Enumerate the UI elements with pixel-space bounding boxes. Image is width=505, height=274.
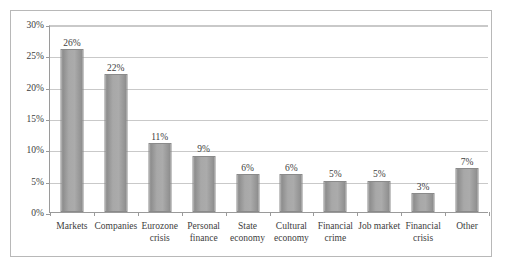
chart-frame: 0%5%10%15%20%25%30% 26%22%11%9%6%6%5%5%3… xyxy=(10,10,492,257)
bar-slot: 22% xyxy=(94,26,138,212)
bar-personal-finance[interactable]: 9% xyxy=(192,156,215,212)
bar-slot: 3% xyxy=(401,26,445,212)
bar-slot: 11% xyxy=(138,26,182,212)
x-axis-category-label-line: Other xyxy=(439,220,495,232)
bar-slot: 7% xyxy=(445,26,489,212)
x-axis-tick xyxy=(226,212,227,216)
bar-cultural-economy[interactable]: 6% xyxy=(280,174,303,212)
bar-value-label: 9% xyxy=(197,145,210,155)
bar-eurozone-crisis[interactable]: 11% xyxy=(148,143,171,212)
x-axis-category-label-line: crime xyxy=(307,232,363,244)
x-axis-category-label: Other xyxy=(439,220,495,232)
bar-state-economy[interactable]: 6% xyxy=(236,174,259,212)
bar-slot: 26% xyxy=(50,26,94,212)
y-axis-label: 5% xyxy=(31,178,44,188)
bar-slot: 9% xyxy=(182,26,226,212)
bar-value-label: 3% xyxy=(417,183,430,193)
bar-value-label: 26% xyxy=(63,39,80,49)
bar-other[interactable]: 7% xyxy=(456,168,479,212)
y-axis-label: 10% xyxy=(27,147,44,157)
bar-value-label: 6% xyxy=(285,164,298,174)
x-axis-tick xyxy=(445,212,446,216)
bar-value-label: 5% xyxy=(329,170,342,180)
bar-markets[interactable]: 26% xyxy=(60,49,83,212)
bar-financial-crime[interactable]: 5% xyxy=(324,181,347,212)
bar-value-label: 5% xyxy=(373,170,386,180)
x-axis-tick xyxy=(357,212,358,216)
x-axis-tick xyxy=(138,212,139,216)
bar-job-market[interactable]: 5% xyxy=(368,181,391,212)
y-axis-label: 25% xyxy=(27,53,44,63)
bar-financial-crisis[interactable]: 3% xyxy=(412,193,435,212)
x-axis-tick xyxy=(401,212,402,216)
bar-value-label: 11% xyxy=(151,133,168,143)
bar-companies[interactable]: 22% xyxy=(104,74,127,212)
x-axis-tick xyxy=(182,212,183,216)
chart-plot-wrapper: 0%5%10%15%20%25%30% 26%22%11%9%6%6%5%5%3… xyxy=(11,11,491,256)
bar-slot: 6% xyxy=(270,26,314,212)
bar-slot: 5% xyxy=(313,26,357,212)
bar-slot: 5% xyxy=(357,26,401,212)
y-axis-label: 20% xyxy=(27,84,44,94)
x-axis-tick xyxy=(489,212,490,216)
x-axis-tick xyxy=(94,212,95,216)
y-axis-label: 30% xyxy=(27,21,44,31)
bar-value-label: 7% xyxy=(461,158,474,168)
y-axis-label: 15% xyxy=(27,115,44,125)
x-axis-tick xyxy=(313,212,314,216)
x-axis-tick xyxy=(50,212,51,216)
chart-plot-area: 0%5%10%15%20%25%30% 26%22%11%9%6%6%5%5%3… xyxy=(49,25,488,213)
y-axis-label: 0% xyxy=(31,209,44,219)
x-axis-category-label-line: crisis xyxy=(395,232,451,244)
bar-value-label: 6% xyxy=(241,164,254,174)
bar-slot: 6% xyxy=(226,26,270,212)
bar-value-label: 22% xyxy=(107,64,124,74)
x-axis-tick xyxy=(270,212,271,216)
